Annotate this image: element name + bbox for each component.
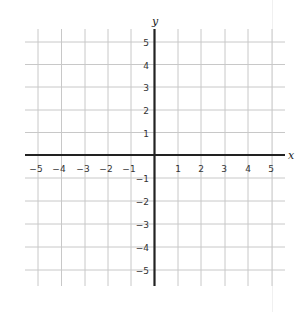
y-tick-label: 1 [143, 129, 149, 139]
y-tick-label: 5 [143, 38, 149, 48]
y-tick-labels: 5 4 3 2 1 −1 −2 −3 −4 −5 [136, 38, 150, 276]
y-axis-label: y [151, 15, 159, 28]
x-tick-label: 1 [175, 164, 181, 174]
x-axis-label: x [288, 149, 295, 162]
y-tick-label: 4 [143, 61, 149, 71]
x-tick-label: −1 [122, 164, 135, 174]
y-tick-label: −1 [136, 174, 149, 184]
x-tick-label: 5 [268, 164, 274, 174]
y-tick-label: −3 [136, 220, 149, 230]
x-tick-label: −3 [76, 164, 89, 174]
y-tick-label: 3 [143, 83, 149, 93]
x-tick-label: 2 [198, 164, 204, 174]
y-tick-label: −2 [136, 197, 149, 207]
coordinate-plane: x y −5 −4 −3 −2 −1 1 2 3 4 5 5 4 3 2 1 −… [0, 0, 307, 312]
x-tick-labels: −5 −4 −3 −2 −1 1 2 3 4 5 [29, 164, 274, 174]
x-tick-label: −4 [52, 164, 66, 174]
x-tick-label: 4 [245, 164, 251, 174]
y-tick-label: 2 [143, 106, 149, 116]
y-tick-label: −4 [136, 243, 150, 253]
x-tick-label: −5 [29, 164, 42, 174]
y-tick-label: −5 [136, 266, 149, 276]
x-tick-label: 3 [221, 164, 227, 174]
x-tick-label: −2 [99, 164, 112, 174]
